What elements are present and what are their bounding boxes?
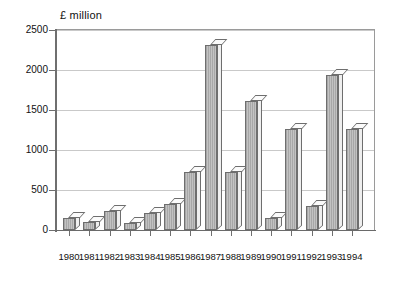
x-axis-label-1994: 1994 — [339, 252, 365, 262]
x-tick-1988 — [231, 231, 232, 236]
bar-1981 — [83, 216, 95, 230]
y-axis-label: 2000 — [26, 65, 48, 75]
gridline-2500 — [57, 30, 374, 31]
bar-face — [285, 129, 297, 230]
y-axis-label: 1000 — [26, 145, 48, 155]
y-axis-label: 0 — [42, 225, 48, 235]
bar-1985 — [164, 198, 176, 230]
y-axis-label: 2500 — [26, 25, 48, 35]
bar-face — [326, 75, 338, 230]
bar-1982 — [104, 205, 116, 230]
x-tick-1994 — [352, 231, 353, 236]
x-tick-1982 — [110, 231, 111, 236]
bar-1983 — [124, 217, 136, 230]
x-tick-1983 — [130, 231, 131, 236]
bar-1994 — [346, 123, 358, 230]
x-tick-1986 — [190, 231, 191, 236]
y-tick-0 — [49, 230, 56, 231]
bar-face — [184, 172, 196, 230]
bar-face — [225, 172, 237, 230]
y-axis-label: 500 — [31, 185, 48, 195]
bar-face — [306, 206, 318, 230]
y-tick-1000 — [49, 150, 56, 151]
x-tick-1987 — [211, 231, 212, 236]
bar-face — [63, 218, 75, 230]
bar-side-face — [217, 40, 222, 230]
bar-1980 — [63, 212, 75, 230]
x-tick-1993 — [332, 231, 333, 236]
bar-face — [164, 204, 176, 230]
bar-face — [205, 45, 217, 230]
chart-title: £ million — [60, 9, 102, 21]
bar-side-face — [338, 70, 343, 230]
x-tick-1980 — [69, 231, 70, 236]
bar-1984 — [144, 207, 156, 230]
bar-1991 — [285, 123, 297, 230]
bar-face — [245, 101, 257, 230]
y-tick-2500 — [49, 30, 56, 31]
bar-1992 — [306, 200, 318, 230]
y-axis-label: 1500 — [26, 105, 48, 115]
y-axis-spine — [55, 29, 57, 232]
bar-face — [104, 211, 116, 230]
x-tick-1989 — [251, 231, 252, 236]
x-axis-baseline — [56, 230, 376, 231]
x-tick-1981 — [89, 231, 90, 236]
bar-1986 — [184, 166, 196, 230]
x-tick-1984 — [150, 231, 151, 236]
y-tick-500 — [49, 190, 56, 191]
bar-face — [144, 213, 156, 230]
bar-1988 — [225, 166, 237, 230]
x-tick-1990 — [271, 231, 272, 236]
bar-side-face — [196, 167, 201, 230]
chart-container: £ million 05001000150020002500 198019811… — [0, 0, 396, 284]
bar-1989 — [245, 95, 257, 230]
bar-side-face — [257, 96, 262, 230]
bar-1987 — [205, 39, 217, 230]
bar-side-face — [358, 124, 363, 230]
bar-face — [83, 222, 95, 230]
x-tick-1991 — [291, 231, 292, 236]
bar-1990 — [265, 212, 277, 230]
bar-side-face — [237, 168, 242, 230]
x-tick-1985 — [170, 231, 171, 236]
bar-face — [124, 223, 136, 230]
bar-side-face — [297, 124, 302, 230]
y-tick-1500 — [49, 110, 56, 111]
bar-1993 — [326, 69, 338, 230]
x-tick-1992 — [312, 231, 313, 236]
bar-face — [346, 129, 358, 230]
y-tick-2000 — [49, 70, 56, 71]
bar-face — [265, 218, 277, 230]
